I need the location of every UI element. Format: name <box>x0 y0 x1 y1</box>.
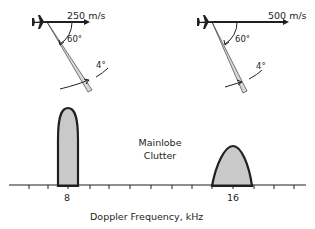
right-aircraft-geometry <box>197 15 289 93</box>
right-angle-label: 60° <box>235 35 250 44</box>
right-speed-label: 500 m/s <box>268 11 307 21</box>
clutter-label-line2: Clutter <box>125 151 195 161</box>
right-beamwidth-label: 4° <box>256 62 266 71</box>
tick-label-8: 8 <box>64 193 70 203</box>
aircraft-icon <box>197 15 213 29</box>
left-aircraft-geometry <box>32 15 108 92</box>
clutter-lobe-16khz <box>212 146 252 186</box>
left-angle-label: 60° <box>67 35 82 44</box>
axis-title: Doppler Frequency, kHz <box>90 212 203 222</box>
doppler-clutter-diagram: 250 m/s 60° 4° 500 m/s 60° 4° Mainlobe C… <box>0 0 315 229</box>
mainlobe-clutter-label: Mainlobe Clutter <box>125 138 195 160</box>
left-beamwidth-label: 4° <box>96 61 106 70</box>
clutter-lobe-8khz <box>58 108 78 186</box>
tick-label-16: 16 <box>227 193 239 203</box>
clutter-label-line1: Mainlobe <box>125 138 195 148</box>
left-speed-label: 250 m/s <box>67 11 106 21</box>
aircraft-icon <box>32 15 48 29</box>
diagram-graphics <box>0 0 315 229</box>
